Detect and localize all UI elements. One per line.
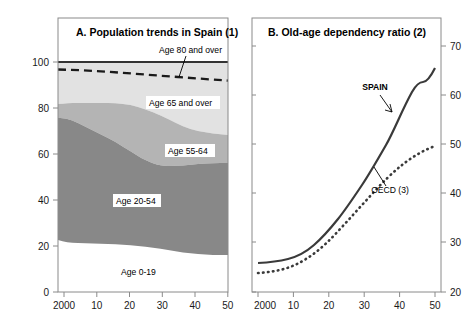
panel-b: 20 30 40 50 60 70 2000 10 20 30 4	[252, 18, 462, 311]
panel-a-xtick-40: 40	[189, 300, 201, 311]
panel-a-areas	[58, 62, 228, 255]
panel-a-ytick-60: 60	[38, 149, 50, 160]
panel-b-ytick-20: 20	[450, 287, 462, 298]
two-panel-chart: 0 20 40 60 80 100 2000 10 20 30 40 50 A.…	[0, 0, 473, 331]
label-age-0-19: Age 0-19	[121, 267, 156, 277]
label-oecd: OECD (3)	[371, 185, 409, 195]
panel-b-ytick-40: 40	[450, 188, 462, 199]
panel-a-xtick-50: 50	[222, 300, 234, 311]
figure-container: 0 20 40 60 80 100 2000 10 20 30 40 50 A.…	[0, 0, 473, 331]
panel-b-xtick-10: 10	[288, 300, 300, 311]
panel-b-xtick-50: 50	[429, 300, 441, 311]
label-age-20-54: Age 20-54	[116, 196, 156, 206]
panel-a: 0 20 40 60 80 100 2000 10 20 30 40 50 A.…	[32, 18, 238, 311]
panel-b-xtick-20: 20	[323, 300, 335, 311]
panel-a-ytick-80: 80	[38, 103, 50, 114]
panel-a-ytick-20: 20	[38, 241, 50, 252]
panel-a-title: A. Population trends in Spain (1)	[76, 26, 238, 38]
label-age-55-64: Age 55-64	[168, 146, 208, 156]
panel-a-xtick-10: 10	[91, 300, 103, 311]
panel-b-title: B. Old-age dependency ratio (2)	[268, 26, 426, 38]
panel-b-xtick-2000: 2000	[254, 300, 277, 311]
panel-b-ytick-70: 70	[450, 41, 462, 52]
label-age-80-plus: Age 80 and over	[159, 45, 222, 55]
panel-b-ytick-50: 50	[450, 139, 462, 150]
label-spain: SPAIN	[362, 82, 388, 92]
panel-b-ytick-30: 30	[450, 237, 462, 248]
panel-a-ytick-0: 0	[43, 287, 49, 298]
panel-b-xtick-40: 40	[394, 300, 406, 311]
panel-a-xtick-2000: 2000	[53, 300, 76, 311]
panel-b-ytick-60: 60	[450, 90, 462, 101]
panel-a-ytick-40: 40	[38, 195, 50, 206]
panel-a-ytick-100: 100	[32, 57, 49, 68]
panel-b-xtick-30: 30	[359, 300, 371, 311]
panel-a-xtick-20: 20	[124, 300, 136, 311]
panel-b-plot-background	[252, 18, 441, 292]
label-age-65-plus: Age 65 and over	[149, 98, 212, 108]
panel-a-xtick-30: 30	[157, 300, 169, 311]
